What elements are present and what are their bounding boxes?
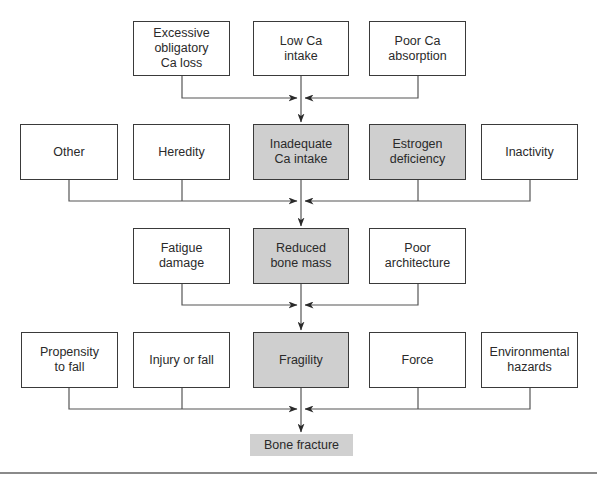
node-poor-architecture: Poor architecture: [369, 228, 466, 284]
node-reduced-bone-mass: Reduced bone mass: [253, 228, 349, 284]
node-heredity: Heredity: [133, 124, 230, 180]
divider-rule: [0, 472, 597, 474]
node-propensity-to-fall: Propensity to fall: [21, 332, 118, 388]
node-other: Other: [20, 124, 118, 180]
node-inadequate-ca-intake: Inadequate Ca intake: [253, 124, 349, 180]
node-low-ca-intake: Low Ca intake: [253, 21, 349, 76]
node-estrogen-deficiency: Estrogen deficiency: [369, 124, 466, 180]
node-fragility: Fragility: [253, 332, 349, 388]
node-environmental-hazards: Environmental hazards: [481, 332, 578, 388]
node-excessive-obligatory-ca-loss: Excessive obligatory Ca loss: [133, 21, 230, 76]
node-fatigue-damage: Fatigue damage: [133, 228, 230, 284]
node-injury-or-fall: Injury or fall: [133, 332, 230, 388]
node-force: Force: [369, 332, 466, 388]
node-bone-fracture: Bone fracture: [250, 434, 353, 456]
node-inactivity: Inactivity: [481, 124, 578, 180]
node-poor-ca-absorption: Poor Ca absorption: [369, 21, 466, 76]
